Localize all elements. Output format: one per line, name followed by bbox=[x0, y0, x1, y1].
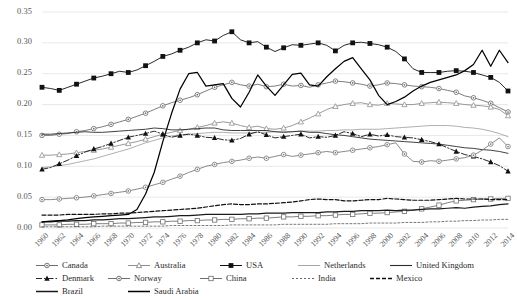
legend-item-mexico[interactable]: Mexico bbox=[368, 272, 460, 285]
legend-key-icon bbox=[218, 260, 244, 271]
legend-key-icon bbox=[198, 273, 224, 284]
legend-item-canada[interactable]: Canada bbox=[34, 259, 126, 272]
legend-item-label: China bbox=[226, 273, 247, 284]
y-tick-label: 0.15 bbox=[2, 130, 32, 139]
legend-item-label: Mexico bbox=[396, 273, 422, 284]
legend-key-icon bbox=[388, 260, 414, 271]
legend-item-label: United Kingdom bbox=[416, 260, 474, 271]
legend-item-label: Brazil bbox=[62, 286, 83, 296]
y-tick-label: 0.35 bbox=[2, 7, 32, 16]
legend-item-label: Netherlands bbox=[324, 260, 366, 271]
series-denmark bbox=[39, 131, 510, 174]
y-tick-label: 0.00 bbox=[2, 223, 32, 232]
legend-item-saudi-arabia[interactable]: Saudi Arabia bbox=[126, 285, 198, 296]
chart-legend: CanadaAustraliaUSANetherlandsUnited King… bbox=[34, 259, 510, 296]
legend-item-label: Australia bbox=[154, 260, 186, 271]
legend-key-icon bbox=[106, 273, 132, 284]
legend-item-denmark[interactable]: Denmark bbox=[34, 272, 106, 285]
legend-item-label: Norway bbox=[134, 273, 162, 284]
legend-item-usa[interactable]: USA bbox=[218, 259, 296, 272]
legend-item-label: USA bbox=[246, 260, 263, 271]
y-tick-label: 0.20 bbox=[2, 99, 32, 108]
legend-key-icon bbox=[34, 273, 60, 284]
legend-item-norway[interactable]: Norway bbox=[106, 272, 198, 285]
legend-item-india[interactable]: India bbox=[290, 272, 368, 285]
legend-item-australia[interactable]: Australia bbox=[126, 259, 218, 272]
legend-key-icon bbox=[34, 286, 60, 296]
series-australia bbox=[39, 99, 510, 157]
legend-item-netherlands[interactable]: Netherlands bbox=[296, 259, 388, 272]
y-tick-label: 0.05 bbox=[2, 192, 32, 201]
legend-key-icon bbox=[126, 260, 152, 271]
legend-key-icon bbox=[126, 286, 152, 296]
legend-item-label: Canada bbox=[62, 260, 88, 271]
legend-key-icon bbox=[368, 273, 394, 284]
y-tick-label: 0.30 bbox=[2, 37, 32, 46]
legend-item-china[interactable]: China bbox=[198, 272, 290, 285]
legend-key-icon bbox=[296, 260, 322, 271]
legend-item-brazil[interactable]: Brazil bbox=[34, 285, 126, 296]
legend-item-label: India bbox=[318, 273, 336, 284]
legend-item-label: Saudi Arabia bbox=[154, 286, 199, 296]
legend-item-united-kingdom[interactable]: United Kingdom bbox=[388, 259, 480, 272]
legend-item-label: Denmark bbox=[62, 273, 94, 284]
chart-container: 0.000.050.100.150.200.250.300.35 1960196… bbox=[0, 0, 517, 296]
legend-key-icon bbox=[34, 260, 60, 271]
legend-key-icon bbox=[290, 273, 316, 284]
y-tick-label: 0.10 bbox=[2, 161, 32, 170]
y-tick-label: 0.25 bbox=[2, 68, 32, 77]
series-china bbox=[40, 196, 510, 227]
series-usa bbox=[40, 29, 511, 93]
